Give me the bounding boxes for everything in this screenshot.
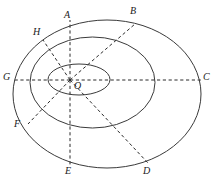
ellipse-group xyxy=(13,20,201,168)
radial-line-OB xyxy=(70,24,135,80)
point-label-F: F xyxy=(14,119,20,129)
point-label-O: O xyxy=(74,81,81,91)
point-label-D: D xyxy=(143,166,150,176)
point-label-H: H xyxy=(33,27,40,37)
point-label-A: A xyxy=(64,10,70,20)
point-label-B: B xyxy=(130,6,136,16)
radial-line-OF xyxy=(28,80,70,124)
point-label-C: C xyxy=(203,72,210,82)
geometry-figure: A B C D E F G H O xyxy=(0,0,215,184)
outer-ellipse xyxy=(13,20,201,168)
point-label-G: G xyxy=(3,72,10,82)
radial-line-OD xyxy=(70,80,148,163)
point-label-E: E xyxy=(65,166,71,176)
radial-line-OH xyxy=(43,40,70,80)
